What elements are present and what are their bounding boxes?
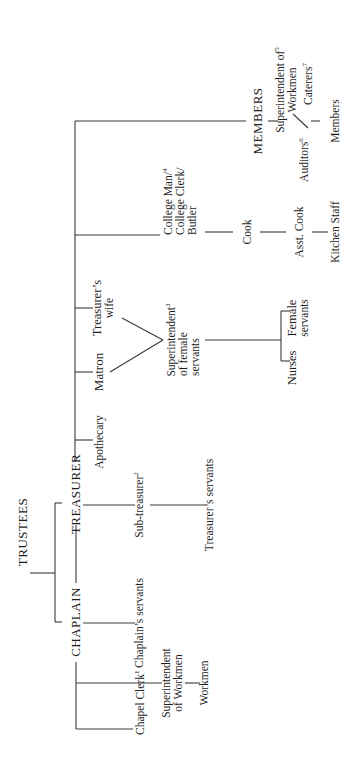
node-auditors: Auditors6 xyxy=(297,138,310,182)
svg-text:servants: servants xyxy=(189,338,201,376)
node-treasurer: TREASURER xyxy=(68,454,83,534)
node-apothecary: Apothecary xyxy=(93,415,106,469)
svg-text:Auditors6: Auditors6 xyxy=(297,138,310,182)
node-treasurers-wife: Treasurer’s wife xyxy=(90,280,115,336)
node-members: MEMBERS xyxy=(250,87,265,154)
node-workmen: Workmen xyxy=(198,660,210,705)
org-chart: TRUSTEES CHAPLAIN TREASURER Chapel Clerk… xyxy=(0,0,360,768)
svg-text:Superintendent3: Superintendent3 xyxy=(164,303,178,377)
node-caterers: Caterers7 xyxy=(301,63,314,105)
node-superintendent-of-workmen-members: Superintendent of5 Workmen xyxy=(273,47,298,133)
svg-text:Superintendent of5: Superintendent of5 xyxy=(273,47,287,133)
svg-text:Female: Female xyxy=(285,299,299,336)
svg-text:Caterers7: Caterers7 xyxy=(301,63,314,105)
svg-text:Sub-treasurer2: Sub-treasurer2 xyxy=(132,472,145,538)
node-chaplain: CHAPLAIN xyxy=(68,587,83,657)
svg-text:Chapel Clerk1: Chapel Clerk1 xyxy=(133,670,147,735)
svg-text:Treasurer’s: Treasurer’s xyxy=(90,280,104,336)
node-chaplains-servants: Chaplain’s servants xyxy=(133,578,146,668)
node-female-servants: Female servants xyxy=(285,299,310,337)
node-cook: Cook xyxy=(241,219,253,244)
node-nurses: Nurses xyxy=(285,351,299,386)
svg-text:Butler: Butler xyxy=(186,206,198,235)
svg-text:wife: wife xyxy=(103,298,115,318)
node-chapel-clerk: Chapel Clerk1 xyxy=(133,670,147,735)
node-college-man: College Man/4 College Clerk/ Butler xyxy=(161,167,198,235)
node-superintendent-of-workmen: Superintendent of Workmen xyxy=(160,647,184,717)
node-kitchen-staff: Kitchen Staff xyxy=(329,201,341,263)
node-asst-cook: Asst. Cook xyxy=(293,206,305,257)
svg-text:servants: servants xyxy=(298,299,310,337)
node-members-leaf: Members xyxy=(329,99,341,143)
svg-text:of female: of female xyxy=(177,332,189,376)
svg-text:College Man/4: College Man/4 xyxy=(161,168,175,235)
node-trustees: TRUSTEES xyxy=(15,498,30,566)
node-treasurers-servants: Treasurer’s servants xyxy=(203,458,215,551)
svg-text:Workmen: Workmen xyxy=(286,67,298,112)
svg-text:of Workmen: of Workmen xyxy=(172,654,184,712)
node-matron: Matron xyxy=(91,352,106,391)
node-sub-treasurer: Sub-treasurer2 xyxy=(132,472,145,538)
node-superintendent-female-servants: Superintendent3 of female servants xyxy=(164,303,201,377)
